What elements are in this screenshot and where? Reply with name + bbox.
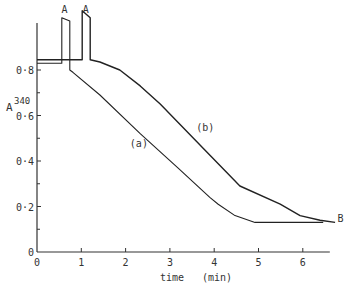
- x-tick-label: 4: [211, 257, 217, 268]
- annotation-label: (a): [130, 138, 148, 149]
- axes: [37, 23, 330, 252]
- y-tick-label: 0: [28, 247, 34, 258]
- x-tick-label: 0: [34, 257, 40, 268]
- y-axis-label-superscript: 340: [14, 96, 30, 106]
- y-tick-label: 0·2: [16, 202, 34, 213]
- x-tick-label: 3: [167, 257, 173, 268]
- annotation-label: A: [83, 4, 89, 15]
- ticks: 012345600·20·40·60·8: [16, 65, 306, 268]
- x-tick-label: 1: [78, 257, 84, 268]
- series-b-line: [37, 11, 335, 223]
- series-a-line: [37, 18, 323, 223]
- y-tick-label: 0·4: [16, 156, 34, 167]
- annotation-label: A: [61, 4, 67, 15]
- annotations: AA(a)(b)B: [61, 4, 343, 224]
- curves: [37, 11, 335, 223]
- y-tick-label: 0·8: [16, 65, 34, 76]
- x-tick-label: 2: [123, 257, 129, 268]
- annotation-label: B: [337, 213, 343, 224]
- x-tick-label: 6: [300, 257, 306, 268]
- x-tick-label: 5: [255, 257, 261, 268]
- absorbance-chart: 012345600·20·40·60·8 AA(a)(b)B time (min…: [0, 0, 352, 289]
- y-tick-label: 0·6: [16, 111, 34, 122]
- y-axis-label: A: [6, 101, 13, 114]
- annotation-label: (b): [196, 122, 214, 133]
- x-axis-label: time (min): [160, 272, 232, 283]
